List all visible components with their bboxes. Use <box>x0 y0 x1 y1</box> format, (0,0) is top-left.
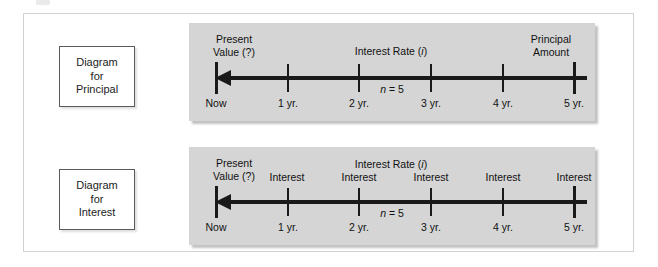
tick-principal-5 <box>573 62 576 94</box>
diagram-label-line-2: for <box>91 70 104 84</box>
interest-rate-symbol: i <box>421 45 423 57</box>
present-value-line-1: Present <box>197 33 271 46</box>
year-label-interest-5: 5 yr. <box>546 221 602 233</box>
present-value-label-principal: Present Value (?) <box>197 33 271 58</box>
tick-interest-0 <box>215 186 218 218</box>
tick-principal-2 <box>358 64 360 92</box>
interest-rate-label-interest: Interest Rate (i) <box>316 158 466 170</box>
diagram-label-line-3: Principal <box>76 83 118 97</box>
present-value-int-line-1: Present <box>197 157 271 170</box>
interest-rate-symbol-interest: i <box>421 158 423 170</box>
cropped-caption-artifact <box>36 0 50 5</box>
tick-principal-4 <box>502 64 504 92</box>
diagram-label-line-1: Diagram <box>76 56 118 70</box>
figure-frame: Diagram for Principal Present Value (?) … <box>23 13 634 252</box>
principal-amount-label: Principal Amount <box>513 33 589 58</box>
year-label-principal-4: 4 yr. <box>475 97 531 109</box>
present-value-line-2: Value (?) <box>197 46 271 59</box>
n-label-principal: n = 5 <box>189 83 595 95</box>
year-label-principal-5: 5 yr. <box>546 97 602 109</box>
period-label-interest-4: Interest <box>472 171 534 183</box>
year-label-principal-2: 2 yr. <box>331 97 387 109</box>
timeline-principal: Present Value (?) Interest Rate (i) Prin… <box>189 23 595 121</box>
axis-line-principal <box>229 76 587 80</box>
principal-amount-line-1: Principal <box>513 33 589 46</box>
tick-principal-3 <box>430 64 432 92</box>
diagram-label-box-interest: Diagram for Interest <box>59 169 135 230</box>
year-label-principal-0: Now <box>188 97 244 109</box>
year-label-interest-1: 1 yr. <box>260 221 316 233</box>
year-label-interest-4: 4 yr. <box>475 221 531 233</box>
n-value: 5 <box>398 83 404 95</box>
axis-line-interest <box>229 200 587 204</box>
n-symbol: n <box>380 83 386 95</box>
period-label-interest-3: Interest <box>400 171 462 183</box>
diagram-label-int-line-1: Diagram <box>76 179 118 193</box>
principal-amount-line-2: Amount <box>513 46 589 59</box>
interest-rate-label-principal: Interest Rate (i) <box>316 45 466 57</box>
n-label-interest: n = 5 <box>189 207 595 219</box>
tick-interest-4 <box>502 188 504 216</box>
diagram-label-int-line-3: Interest <box>79 206 116 220</box>
tick-interest-5 <box>573 186 576 218</box>
year-label-principal-3: 3 yr. <box>403 97 459 109</box>
tick-principal-1 <box>287 64 289 92</box>
year-label-interest-0: Now <box>188 221 244 233</box>
year-label-interest-2: 2 yr. <box>331 221 387 233</box>
diagram-label-box-principal: Diagram for Principal <box>59 46 135 107</box>
tick-interest-2 <box>358 188 360 216</box>
period-label-interest-1: Interest <box>256 171 318 183</box>
diagram-label-int-line-2: for <box>91 193 104 207</box>
n-symbol-interest: n <box>380 207 386 219</box>
timeline-interest: Present Value (?) Interest Rate (i) Inte… <box>189 147 595 245</box>
tick-principal-0 <box>215 62 218 94</box>
period-label-interest-5: Interest <box>543 171 605 183</box>
period-label-interest-2: Interest <box>328 171 390 183</box>
timeline-panel-principal: Present Value (?) Interest Rate (i) Prin… <box>189 23 595 121</box>
n-value-interest: 5 <box>398 207 404 219</box>
tick-interest-3 <box>430 188 432 216</box>
timeline-panel-interest: Present Value (?) Interest Rate (i) Inte… <box>189 147 595 245</box>
tick-interest-1 <box>287 188 289 216</box>
year-label-principal-1: 1 yr. <box>260 97 316 109</box>
year-label-interest-3: 3 yr. <box>403 221 459 233</box>
